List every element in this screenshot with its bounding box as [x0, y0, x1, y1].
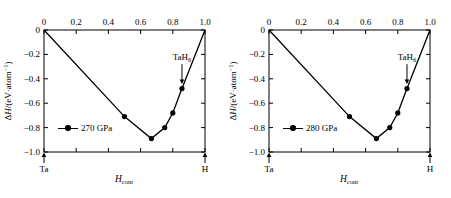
data-point [122, 114, 127, 119]
data-point [374, 136, 379, 141]
x-tick-label: 1.0 [424, 18, 435, 27]
legend-marker [65, 125, 71, 131]
y-tick-label: −1.0 [249, 148, 265, 157]
y-axis-label: ΔH/(eV·atom−1) [3, 61, 13, 120]
y-tick-label: −1.0 [24, 148, 40, 157]
data-point [162, 125, 167, 130]
y-tick-label: 0 [36, 26, 41, 35]
convex-hull-figure: 00.20.40.60.81.00−0.2−0.4−0.6−0.8−1.0ΔH/… [0, 0, 451, 198]
x-tick-label: 0.6 [360, 18, 371, 27]
data-point [387, 125, 392, 130]
legend: 270 GPa [58, 123, 112, 133]
y-tick-label: −0.8 [24, 123, 40, 132]
end-species-arrow-head-right [203, 153, 208, 158]
legend-symbol [283, 124, 303, 132]
data-point [347, 114, 352, 119]
data-point [170, 110, 175, 115]
end-label-ta: Ta [265, 164, 274, 174]
x-tick-label: 0.2 [296, 18, 307, 27]
y-tick-label: 0 [261, 26, 266, 35]
x-tick-label: 0 [267, 18, 272, 27]
y-tick-label: −0.6 [24, 99, 40, 108]
y-tick-label: −0.6 [249, 99, 265, 108]
annotation-tah6: TaH6 [173, 53, 192, 62]
end-species-arrow-head-left [267, 153, 272, 158]
legend-label: 280 GPa [306, 123, 337, 133]
legend-symbol [58, 124, 78, 132]
end-label-ta: Ta [40, 164, 49, 174]
panel-270gpa: 00.20.40.60.81.00−0.2−0.4−0.6−0.8−1.0ΔH/… [0, 0, 226, 198]
x-tick-label: 0.2 [71, 18, 82, 27]
y-axis-label: ΔH/(eV·atom−1) [228, 61, 238, 120]
end-label-h: H [427, 164, 434, 174]
legend-label: 270 GPa [81, 123, 112, 133]
data-point [149, 136, 154, 141]
x-tick-label: 0.4 [103, 18, 114, 27]
end-species-arrow-head-right [428, 153, 433, 158]
x-tick-label: 0.4 [328, 18, 339, 27]
x-axis-label: Hcont [340, 174, 358, 184]
x-tick-label: 0.8 [392, 18, 403, 27]
y-tick-label: −0.2 [249, 50, 265, 59]
end-species-arrow-head-left [42, 153, 47, 158]
x-tick-label: 1.0 [199, 18, 210, 27]
y-tick-label: −0.4 [249, 74, 265, 83]
legend: 280 GPa [283, 123, 337, 133]
y-tick-label: −0.2 [24, 50, 40, 59]
data-point [404, 86, 409, 91]
y-tick-label: −0.8 [249, 123, 265, 132]
annotation-tah6: TaH6 [398, 53, 417, 62]
y-tick-label: −0.4 [24, 74, 40, 83]
legend-marker [290, 125, 296, 131]
data-point [395, 110, 400, 115]
data-point [179, 86, 184, 91]
panel-280gpa: 00.20.40.60.81.00−0.2−0.4−0.6−0.8−1.0ΔH/… [225, 0, 451, 198]
x-tick-label: 0 [42, 18, 47, 27]
end-label-h: H [202, 164, 209, 174]
x-tick-label: 0.6 [135, 18, 146, 27]
x-tick-label: 0.8 [167, 18, 178, 27]
x-axis-label: Hcont [115, 174, 133, 184]
